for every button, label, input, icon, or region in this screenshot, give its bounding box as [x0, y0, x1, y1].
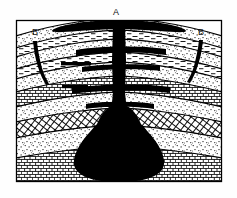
label-b-right: B — [198, 28, 204, 37]
cross-section-body — [10, 12, 230, 188]
sill-stub-left-upper — [61, 62, 91, 65]
figure-canvas: A B B — [0, 0, 237, 198]
sill-stub-left-lower — [62, 85, 88, 88]
label-a: A — [113, 8, 119, 17]
label-b-left: B — [32, 28, 38, 37]
